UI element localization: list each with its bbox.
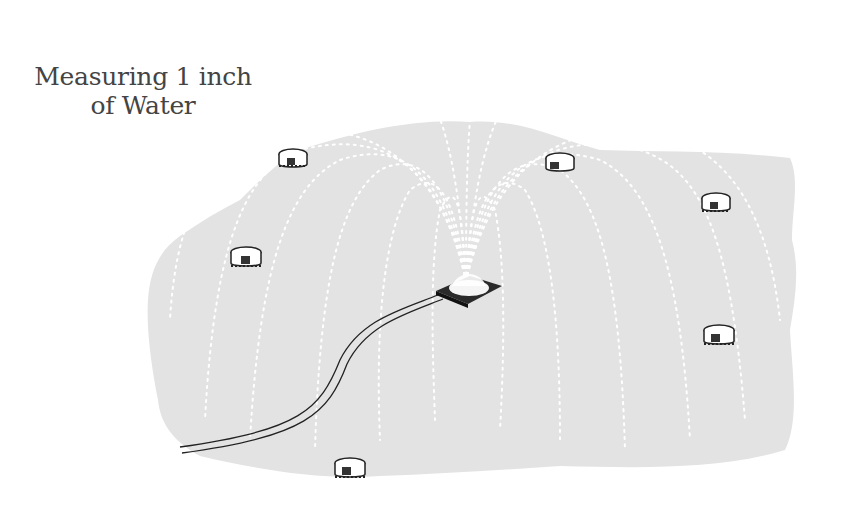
sprinkler-illustration xyxy=(0,0,842,514)
catch-can-icon xyxy=(231,247,261,266)
catch-can-icon xyxy=(546,153,574,171)
catch-can-icon xyxy=(704,325,734,344)
catch-can-icon xyxy=(335,458,365,477)
catch-can-icon xyxy=(279,149,307,167)
catch-can-icon xyxy=(702,193,730,211)
